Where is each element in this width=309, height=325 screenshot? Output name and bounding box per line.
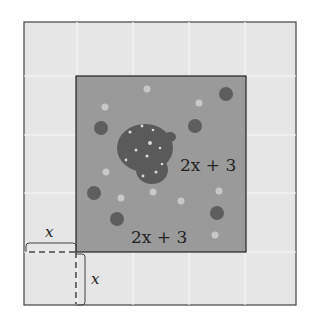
border-width-label: x [45, 223, 54, 241]
garden-height-label: 2x + 3 [180, 155, 236, 175]
garden-diagram: 2x + 3 2x + 3 x x [0, 0, 309, 325]
border-height-label: x [91, 270, 100, 288]
garden-width-label: 2x + 3 [131, 227, 187, 247]
